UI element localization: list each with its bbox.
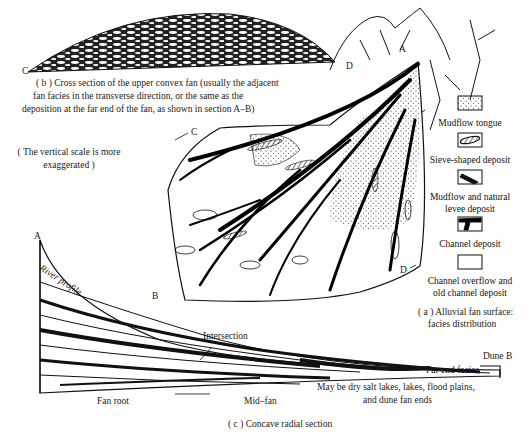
legend-channel-overflow-line1: Channel overflow and [410,275,530,287]
point-b-fan: B [152,290,158,302]
point-a-fan: A [399,43,406,55]
legend-channel-overflow-line2: old channel deposit [410,287,530,299]
convex-fan-cross-section [28,13,335,72]
panel-b-caption-line2: fan facies in the transverse direction, … [33,90,243,102]
mid-fan-label: Mid–fan [244,395,277,407]
legend-mudflow-levee-line1: Mudflow and natural [410,191,530,203]
point-d-fan: D [400,264,407,276]
point-c-fan: C [191,126,197,138]
legend-channel-deposit: Channel deposit [410,238,530,250]
panel-a-caption-line1: ( a ) Alluvial fan surface: [418,306,513,318]
legend-sieve-shaped-deposit: Sieve-shaped deposit [410,154,530,166]
dune-b-label: Dune B [483,350,512,362]
panel-a-caption-line2: facies distribution [428,318,496,330]
note-line1: May be dry salt lakes, lakes, flood plai… [317,381,475,393]
scale-note-line2: exaggerated ) [14,159,124,171]
point-a-radial: A [34,230,41,242]
panel-b-caption-line3: deposition at the far end of the fan, as… [22,103,254,115]
panel-c-caption: ( c ) Concave radial section [228,418,332,430]
point-d-cross-section: D [346,60,353,72]
scale-note-line1: ( The vertical scale is more [14,146,124,158]
far-end-facies-label: Far end facies [426,364,479,376]
intersection-label: Intersection [203,330,248,342]
panel-b-caption-line1: ( b ) Cross section of the upper convex … [36,77,279,89]
legend-mudflow-levee-line2: levee deposit [410,203,530,215]
note-line2: and dune fan ends [363,394,432,406]
legend-mudflow-tongue: Mudflow tongue [410,117,530,129]
fan-root-label: Fan root [97,395,129,407]
point-c-cross-section: C [22,65,28,77]
